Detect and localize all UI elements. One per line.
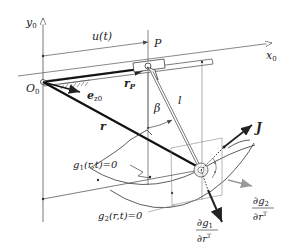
u-dimension-line [43,42,148,56]
svg-text:∂g1: ∂g1 [197,217,213,230]
u-label: u(t) [92,30,112,43]
origin-label: O0 [26,82,40,96]
pendulum-constraint-diagram: y0 x0 O0 u(t) P rP ez0 r β l J g1(r,t)=0… [0,0,289,251]
svg-text:∂rT: ∂rT [253,210,267,222]
vector-J [224,125,252,147]
vector-r-p [43,68,148,82]
r-p-label: rP [124,77,136,91]
vector-grad-g2 [228,180,252,186]
svg-text:∂rT: ∂rT [197,232,211,244]
vector-r [43,82,200,168]
g2-constraint-label: g2(r,t)=0 [98,210,143,223]
g1-constraint-label: g1(r,t)=0 [73,159,118,172]
vector-grad-g1 [208,190,222,222]
e-z0-label: ez0 [87,89,102,103]
y0-label: y0 [25,16,37,30]
diagram-svg: y0 x0 O0 u(t) P rP ez0 r β l J g1(r,t)=0… [0,0,289,251]
grad-g1-label: ∂g1 ∂rT [196,217,218,244]
x0-label: x0 [266,49,277,63]
l-label: l [178,94,182,107]
r-label: r [100,120,107,133]
beta-label: β [153,102,160,115]
J-label: J [254,121,263,135]
svg-text:∂g2: ∂g2 [253,195,269,208]
p-label: P [153,37,162,50]
angle-beta-arc [148,120,172,128]
grad-g2-label: ∂g2 ∂rT [252,195,274,222]
